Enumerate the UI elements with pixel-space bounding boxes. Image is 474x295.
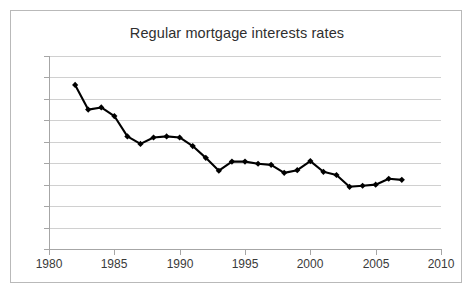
x-axis-line [49, 249, 442, 250]
mortgage-rate-series [49, 56, 441, 249]
data-point-marker-2006 [386, 176, 392, 182]
data-point-marker-1996 [255, 161, 261, 167]
chart-title: Regular mortgage interests rates [11, 25, 463, 41]
data-point-marker-2007 [399, 177, 405, 183]
x-tick-mark-1985 [114, 250, 115, 255]
data-point-marker-1995 [242, 159, 248, 165]
x-axis-tick-label: 2005 [353, 258, 399, 271]
x-tick-mark-2000 [310, 250, 311, 255]
x-tick-mark-2005 [376, 250, 377, 255]
chart-frame: Regular mortgage interests rates 0246810… [10, 10, 462, 283]
x-axis-tick-label: 1980 [26, 258, 72, 271]
data-point-marker-2005 [373, 182, 379, 188]
series-line [75, 85, 402, 187]
x-axis-tick-label: 2010 [418, 258, 464, 271]
x-axis-tick-label: 1985 [91, 258, 137, 271]
x-axis-tick-label: 1990 [157, 258, 203, 271]
x-tick-mark-1980 [49, 250, 50, 255]
x-tick-mark-1990 [180, 250, 181, 255]
x-tick-mark-2010 [441, 250, 442, 255]
x-tick-mark-1995 [245, 250, 246, 255]
plot-area [49, 56, 441, 249]
data-point-marker-2004 [360, 183, 366, 189]
data-point-marker-1989 [164, 133, 170, 139]
x-axis-tick-label: 2000 [287, 258, 333, 271]
x-axis-tick-label: 1995 [222, 258, 268, 271]
